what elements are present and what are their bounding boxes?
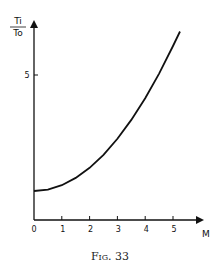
- chart-svg: 012345 5 M Ti To: [0, 0, 220, 276]
- y-axis-label: Ti To: [10, 16, 26, 38]
- x-tick-label: 4: [144, 225, 149, 234]
- x-tick-label: 5: [171, 225, 176, 234]
- x-tick-label: 2: [88, 225, 93, 234]
- x-tick-label: 1: [60, 225, 65, 234]
- x-ticks: 012345: [31, 216, 176, 234]
- figure-caption: Fig. 33: [0, 250, 220, 263]
- x-tick-label: 0: [31, 225, 36, 234]
- y-axis-label-numerator: Ti: [13, 16, 22, 26]
- data-curve: [34, 32, 180, 192]
- y-tick-label: 5: [24, 71, 29, 80]
- y-ticks: 5: [24, 71, 38, 80]
- x-tick-label: 3: [116, 225, 121, 234]
- y-axis-label-denominator: To: [12, 28, 23, 38]
- x-axis-label: M: [202, 229, 210, 239]
